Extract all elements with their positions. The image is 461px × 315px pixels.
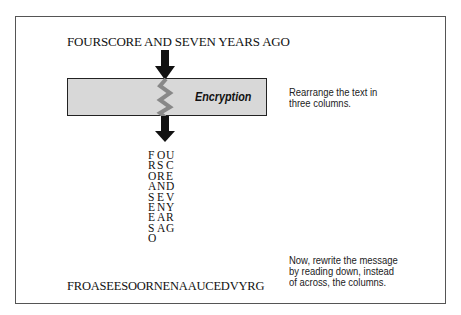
grid-letter: A [157,223,166,233]
grid-letter: O [148,233,157,243]
encryption-label: Encryption [195,90,251,104]
zigzag-icon [160,79,170,117]
grid-letter [166,233,175,243]
down-arrow-icon [155,116,175,142]
step2-note: Now, rewrite the message by reading down… [289,255,398,288]
note-line: three columns. [289,98,377,109]
ciphertext-message: FROASEESOORNENAAUCEDVYRG [67,279,264,294]
grid-row: O [148,233,175,243]
step1-note: Rearrange the text in three columns. [289,87,377,109]
grid-letter: G [166,223,175,233]
down-arrow-icon [155,50,175,80]
grid-letter [157,233,166,243]
note-line: of across, the columns. [289,277,398,288]
column-grid: FOU RSC ORE AND SEV ENY EAR SAG O [148,150,175,244]
